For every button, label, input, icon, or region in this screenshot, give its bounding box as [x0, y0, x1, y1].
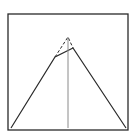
diagram-canvas — [0, 0, 137, 133]
dashed-apex-extension — [55, 37, 73, 57]
